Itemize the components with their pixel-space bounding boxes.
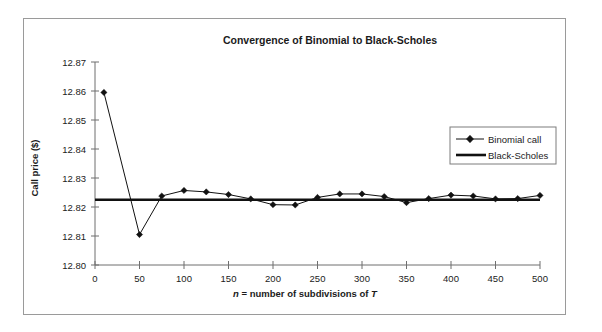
- data-point-marker: [203, 189, 209, 195]
- legend-label-black-scholes: Black-Scholes: [488, 150, 548, 161]
- data-point-marker: [225, 191, 231, 197]
- chart-legend[interactable]: Binomial call Black-Scholes: [450, 127, 556, 164]
- x-tick-label: 300: [354, 273, 370, 284]
- data-point-marker: [159, 193, 165, 199]
- data-point-marker: [292, 202, 298, 208]
- x-tick-labels: 050100150200250300350400450500: [92, 273, 548, 284]
- data-point-marker: [470, 193, 476, 199]
- data-point-marker: [359, 191, 365, 197]
- x-tick-label: 500: [532, 273, 548, 284]
- y-tick-label: 12.84: [62, 144, 86, 155]
- x-tick-label: 50: [134, 273, 145, 284]
- data-point-marker: [181, 187, 187, 193]
- data-point-marker: [537, 192, 543, 198]
- y-tick-label: 12.86: [62, 86, 86, 97]
- y-tick-label: 12.82: [62, 202, 86, 213]
- y-tick-labels: 12.8012.8112.8212.8312.8412.8512.8612.87: [62, 57, 86, 271]
- x-tick-label: 400: [443, 273, 459, 284]
- figure-container: Convergence of Binomial to Black-Scholes…: [0, 0, 602, 332]
- data-point-marker: [448, 192, 454, 198]
- chart-title: Convergence of Binomial to Black-Scholes: [223, 34, 437, 46]
- data-point-marker: [101, 89, 107, 95]
- x-tick-label: 0: [92, 273, 97, 284]
- x-tick-label: 450: [488, 273, 504, 284]
- y-axis-title: Call price ($): [29, 139, 40, 196]
- y-axis: 12.8012.8112.8212.8312.8412.8512.8612.87: [62, 57, 99, 271]
- x-tick-label: 250: [310, 273, 326, 284]
- x-axis-title-middle: = number of subdivisions of: [239, 288, 371, 299]
- x-axis: 050100150200250300350400450500: [92, 261, 548, 284]
- y-tick-label: 12.83: [62, 173, 86, 184]
- data-point-marker: [136, 231, 142, 237]
- x-axis-title-t: T: [371, 288, 378, 299]
- x-axis-title: n = number of subdivisions of T: [233, 288, 378, 299]
- x-tick-label: 100: [176, 273, 192, 284]
- convergence-chart: Convergence of Binomial to Black-Scholes…: [0, 0, 602, 332]
- y-tick-label: 12.80: [62, 260, 86, 271]
- y-tick-label: 12.87: [62, 57, 86, 68]
- data-point-marker: [270, 202, 276, 208]
- x-tick-label: 150: [221, 273, 237, 284]
- data-point-marker: [337, 191, 343, 197]
- legend-label-binomial-call: Binomial call: [488, 134, 541, 145]
- y-tick-label: 12.85: [62, 115, 86, 126]
- x-tick-label: 350: [399, 273, 415, 284]
- x-tick-label: 200: [265, 273, 281, 284]
- y-tick-label: 12.81: [62, 231, 86, 242]
